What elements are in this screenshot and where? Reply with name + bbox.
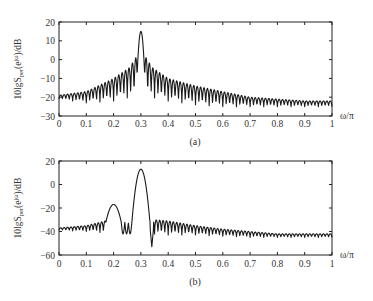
caption-b: (b) (189, 276, 201, 288)
x-tick-label: 0.2 (108, 259, 120, 269)
x-tick-label: 0.3 (135, 259, 147, 269)
x-tick-label: 0.4 (162, 119, 174, 129)
x-tick-label: 0.2 (108, 119, 120, 129)
x-tick-label: 0.8 (271, 259, 283, 269)
x-tick-label: 0 (57, 259, 62, 269)
y-tick-labels-b: 200−20−40−60 (40, 157, 55, 261)
y-tick-label: −30 (40, 112, 55, 122)
y-tick-label: −20 (40, 204, 55, 214)
y-tick-label: −20 (40, 93, 55, 103)
spectrum-curve-b (59, 169, 332, 247)
y-tick-label: 20 (46, 18, 56, 28)
x-tick-label: 0 (57, 119, 62, 129)
x-tick-label: 0.8 (271, 119, 283, 129)
y-tick-label: 0 (50, 55, 55, 65)
panel-b: 200−20−40−60 00.10.20.30.40.50.60.70.80.… (12, 157, 354, 289)
x-tick-label: 0.9 (299, 259, 311, 269)
x-tick-labels-a: 00.10.20.30.40.50.60.70.80.91 (57, 119, 335, 129)
y-tick-label: −40 (40, 227, 55, 237)
y-axis-label-a: 10lgSper(ejω)/dB (12, 39, 24, 100)
x-tick-label: 0.6 (217, 119, 229, 129)
x-tick-label: 0.1 (80, 259, 92, 269)
x-tick-label: 0.1 (80, 119, 92, 129)
y-tick-label: −10 (40, 74, 55, 84)
x-tick-label: 0.7 (244, 259, 256, 269)
y-tick-labels-a: 20100−10−20−30 (40, 18, 55, 122)
y-tick-label: 0 (50, 180, 55, 190)
x-tick-label: 0.9 (299, 119, 311, 129)
x-tick-label: 0.3 (135, 119, 147, 129)
x-tick-label: 0.6 (217, 259, 229, 269)
plot-frame-b (59, 161, 332, 255)
y-tick-label: 10 (46, 36, 56, 46)
x-tick-label: 1 (330, 259, 335, 269)
panel-a: 20100−10−20−30 00.10.20.30.40.50.60.70.8… (12, 18, 354, 149)
x-tick-label: 0.5 (190, 119, 202, 129)
caption-a: (a) (189, 136, 200, 148)
x-axis-label-b: ω/π (340, 250, 354, 260)
x-axis-label-a: ω/π (340, 111, 354, 121)
spectrum-curve-a (59, 31, 332, 106)
x-tick-label: 0.7 (244, 119, 256, 129)
y-axis-label-b: 10lgSper(ejω)/dB (12, 178, 24, 239)
x-tick-labels-b: 00.10.20.30.40.50.60.70.80.91 (57, 259, 335, 269)
figure: 20100−10−20−30 00.10.20.30.40.50.60.70.8… (0, 0, 373, 301)
x-tick-label: 0.4 (162, 259, 174, 269)
y-tick-label: −60 (40, 251, 55, 261)
y-tick-label: 20 (46, 157, 56, 167)
x-tick-label: 0.5 (190, 259, 202, 269)
x-tick-label: 1 (330, 119, 335, 129)
ticks-b (59, 161, 332, 255)
